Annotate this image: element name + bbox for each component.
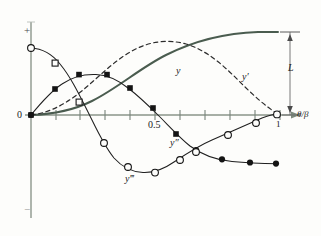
origin-marker [28, 112, 34, 118]
amplitude-label-L: L [288, 63, 294, 73]
x-tick-label-1: 1 [276, 120, 281, 129]
curve-label-y-triple-prime: y‴ [125, 174, 134, 184]
x-axis-title: θ/β [297, 110, 308, 119]
x-tick-label-0: 0 [17, 110, 22, 120]
curve-label-y-prime: y′ [242, 72, 249, 82]
derivative-curves-figure [0, 0, 321, 236]
y-axis-negative-sign: − [24, 204, 30, 215]
y-axis-positive-sign: + [24, 25, 30, 36]
curve-label-y-double-prime: y″ [170, 138, 179, 148]
x-tick-label-0point5: 0.5 [148, 120, 161, 130]
curve-label-y: y [176, 66, 180, 76]
